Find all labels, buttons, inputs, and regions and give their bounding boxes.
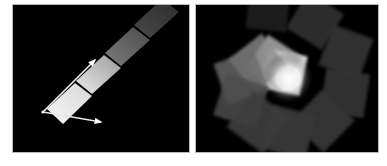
radial-squares-canvas — [196, 5, 378, 152]
square-tile-8 — [320, 68, 370, 118]
square-tile-11 — [245, 5, 290, 33]
figure-root — [0, 0, 387, 166]
caption-strip — [0, 153, 387, 166]
gradient-strip-panel[interactable] — [13, 5, 189, 152]
radial-squares-panel[interactable] — [196, 5, 378, 152]
gradient-strip-canvas — [13, 5, 189, 152]
axis-origin-marker — [41, 110, 44, 113]
center-glow-group — [262, 52, 314, 104]
center-glow — [262, 52, 314, 104]
